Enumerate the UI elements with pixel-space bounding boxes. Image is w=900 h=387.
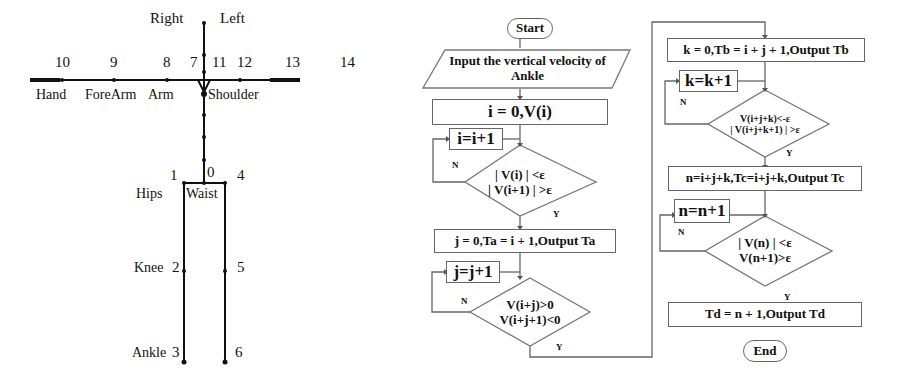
- decision-i-line2: | V(i+1) | >ε: [488, 183, 552, 198]
- input-text: Input the vertical velocity of Ankle: [440, 54, 615, 84]
- init-i-process: i = 0,V(i): [432, 99, 608, 125]
- increment-j-text: j=j+1: [453, 262, 492, 282]
- shoulder-label: Shoulder: [208, 87, 259, 103]
- output-tb-text: k = 0,Tb = i + j + 1,Output Tb: [683, 43, 849, 58]
- ankle-label: Ankle: [132, 345, 166, 361]
- output-ta-process: j = 0,Ta = i + 1,Output Ta: [434, 229, 616, 253]
- joint-14-label: 14: [340, 54, 355, 71]
- forearm-label: ForeArm: [85, 87, 136, 103]
- joint-2-label: 2: [172, 259, 180, 276]
- joint-1-label: 1: [170, 167, 178, 184]
- joint-3-label: 3: [172, 344, 180, 361]
- increment-j-process: j=j+1: [446, 261, 500, 283]
- joint-13-label: 13: [285, 54, 300, 71]
- hand-label: Hand: [36, 87, 66, 103]
- joint-5-label: 5: [237, 259, 245, 276]
- output-tb-process: k = 0,Tb = i + j + 1,Output Tb: [667, 38, 865, 62]
- joint-11-label: 11: [212, 54, 226, 71]
- increment-k-text: k=k+1: [685, 71, 732, 91]
- arm-label: Arm: [148, 87, 174, 103]
- end-text: End: [753, 344, 776, 359]
- joint-4-label: 4: [237, 167, 245, 184]
- output-td-text: Td = n + 1,Output Td: [705, 307, 825, 322]
- decision-i: | V(i) | <ε | V(i+1) | >ε: [475, 163, 565, 203]
- decision-k-line1: V(i+j+k)<-ε: [740, 113, 790, 125]
- left-side-label: Left: [220, 10, 245, 27]
- decision-j-no-label: N: [461, 296, 468, 306]
- decision-i-no-label: N: [452, 160, 459, 170]
- increment-n-text: n=n+1: [679, 201, 726, 221]
- decision-k-line2: | V(i+j+k+1) | >ε: [730, 124, 799, 136]
- right-side-label: Right: [150, 10, 183, 27]
- increment-n-process: n=n+1: [674, 199, 730, 223]
- decision-j: V(i+j)>0 V(i+j+1)<0: [485, 295, 575, 331]
- decision-j-yes-label: Y: [556, 342, 563, 352]
- joint-0-label: 0: [207, 164, 215, 181]
- decision-n-line2: V(n+1)>ε: [739, 251, 791, 266]
- knee-label: Knee: [134, 260, 164, 276]
- joint-8-label: 8: [163, 54, 171, 71]
- output-td-process: Td = n + 1,Output Td: [668, 302, 862, 327]
- hips-label: Hips: [136, 186, 162, 202]
- decision-j-line2: V(i+j+1)<0: [499, 313, 560, 328]
- input-node: Input the vertical velocity of Ankle: [440, 51, 615, 87]
- joint-6-label: 6: [235, 344, 243, 361]
- decision-n-line1: | V(n) | <ε: [738, 236, 791, 251]
- waist-label: Waist: [186, 186, 218, 202]
- decision-k: V(i+j+k)<-ε | V(i+j+k+1) | >ε: [715, 109, 815, 139]
- decision-n-no-label: N: [678, 227, 685, 237]
- decision-k-yes-label: Y: [786, 148, 793, 158]
- increment-i-text: i=i+1: [457, 129, 494, 149]
- joint-9-label: 9: [110, 54, 118, 71]
- end-terminal: End: [743, 340, 787, 362]
- decision-j-line1: V(i+j)>0: [506, 298, 553, 313]
- decision-n: | V(n) | <ε V(n+1)>ε: [720, 233, 810, 269]
- output-tc-process: n=i+j+k,Tc=i+j+k,Output Tc: [668, 166, 862, 191]
- joint-12-label: 12: [237, 54, 252, 71]
- decision-k-no-label: N: [680, 97, 687, 107]
- start-text: Start: [516, 21, 544, 36]
- decision-n-yes-label: Y: [784, 292, 791, 302]
- init-i-text: i = 0,V(i): [488, 102, 552, 122]
- start-terminal: Start: [507, 18, 553, 39]
- output-ta-text: j = 0,Ta = i + 1,Output Ta: [455, 234, 596, 249]
- decision-i-yes-label: Y: [553, 209, 560, 219]
- increment-i-process: i=i+1: [449, 128, 503, 150]
- joint-7-label: 7: [190, 54, 198, 71]
- increment-k-process: k=k+1: [679, 70, 738, 92]
- output-tc-text: n=i+j+k,Tc=i+j+k,Output Tc: [686, 171, 845, 186]
- decision-i-line1: | V(i) | <ε: [495, 168, 545, 183]
- joint-10-label: 10: [55, 54, 70, 71]
